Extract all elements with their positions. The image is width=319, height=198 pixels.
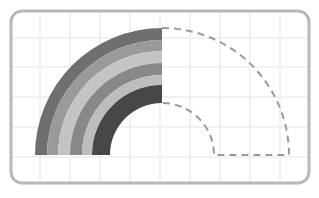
dashed-mirror-outline	[162, 28, 289, 155]
rainbow-diagram	[0, 0, 319, 198]
rainbow-bands	[35, 28, 162, 155]
